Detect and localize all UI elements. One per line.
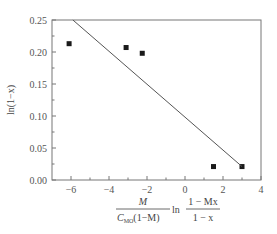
- xlabel-frac-denominator: 1 − x: [193, 212, 214, 223]
- y-tick-label: 0.00: [30, 175, 48, 186]
- y-axis-label: ln(1−x): [5, 85, 17, 115]
- x-axis-ticks: −6−4−2024: [66, 176, 264, 195]
- xlabel-numerator: M: [138, 196, 148, 207]
- x-tick-label: −2: [142, 184, 153, 195]
- x-axis-label: M CMO(1−M) ln 1 − Mx 1 − x: [116, 196, 220, 224]
- chart: 0.000.050.100.150.200.25 −6−4−2024 ln(1−…: [0, 0, 277, 234]
- y-tick-label: 0.15: [30, 79, 48, 90]
- x-tick-label: −4: [104, 184, 115, 195]
- xlabel-ln: ln: [172, 204, 180, 215]
- y-tick-label: 0.05: [30, 143, 48, 154]
- x-tick-label: 4: [259, 184, 264, 195]
- data-point: [140, 51, 145, 56]
- x-tick-label: 2: [221, 184, 226, 195]
- y-tick-label: 0.25: [30, 15, 48, 26]
- data-point: [67, 41, 72, 46]
- x-tick-label: 0: [183, 184, 188, 195]
- data-point: [211, 164, 216, 169]
- series-layer: [67, 20, 245, 169]
- y-tick-label: 0.20: [30, 47, 48, 58]
- data-point: [124, 45, 129, 50]
- x-tick-label: −6: [66, 184, 77, 195]
- xlabel-denominator: CMO(1−M): [117, 212, 160, 224]
- xlabel-frac-numerator: 1 − Mx: [188, 196, 218, 207]
- y-tick-label: 0.10: [30, 111, 48, 122]
- fit-line: [73, 20, 242, 167]
